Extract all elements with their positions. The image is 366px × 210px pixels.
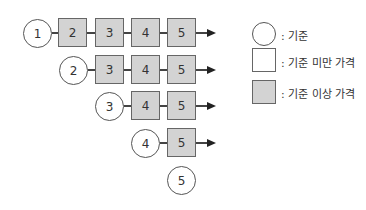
box: 5 xyxy=(167,55,196,84)
reference-circle: 4 xyxy=(131,129,160,158)
box: 5 xyxy=(167,18,196,47)
box: 4 xyxy=(131,18,160,47)
box: 4 xyxy=(131,55,160,84)
legend-circle-icon xyxy=(252,22,276,46)
legend-label-below: : 기준 미만 가격 xyxy=(281,54,355,70)
box: 3 xyxy=(95,18,124,47)
reference-circle: 5 xyxy=(167,166,196,195)
connector xyxy=(160,105,167,107)
connector xyxy=(124,32,131,34)
reference-circle: 1 xyxy=(23,19,52,48)
legend-gray-square-icon xyxy=(252,80,276,104)
box: 5 xyxy=(167,128,196,157)
connector xyxy=(88,69,95,71)
connector xyxy=(160,69,167,71)
connector xyxy=(124,105,131,107)
arrow-right-icon xyxy=(207,66,216,74)
arrow-right-icon xyxy=(207,102,216,110)
connector xyxy=(160,142,167,144)
arrow-right-icon xyxy=(207,29,216,37)
reference-circle: 2 xyxy=(59,56,88,85)
connector xyxy=(124,69,131,71)
legend-white-square-icon xyxy=(252,48,276,72)
box: 2 xyxy=(58,18,87,47)
arrow-right-icon xyxy=(207,139,216,147)
connector xyxy=(87,32,95,34)
box: 4 xyxy=(131,91,160,120)
legend-label-reference: : 기준 xyxy=(281,27,308,43)
legend-label-above: : 기준 이상 가격 xyxy=(281,85,355,101)
connector xyxy=(160,32,167,34)
box: 5 xyxy=(167,91,196,120)
box: 3 xyxy=(95,55,124,84)
reference-circle: 3 xyxy=(95,92,124,121)
